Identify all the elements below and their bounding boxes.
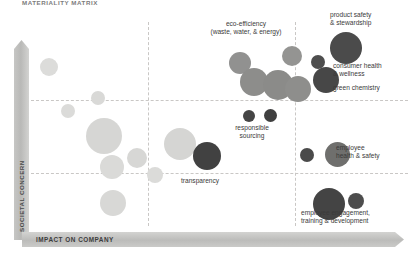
label-product-safety: product safety & stewardship <box>330 11 418 28</box>
label-employee-health: employee health & safety <box>336 144 418 161</box>
label-green-chemistry: green chemistry <box>333 84 419 92</box>
page-title: MATERIALITY MATRIX <box>22 0 98 6</box>
gridline-horizontal-1 <box>26 100 408 101</box>
bubble-dark-7[interactable] <box>300 148 314 162</box>
label-consumer-health: consumer health & wellness <box>333 62 419 79</box>
bubble-dark-1[interactable] <box>243 110 255 122</box>
bubble-light-5[interactable] <box>100 155 124 179</box>
y-axis-label: SOCIETAL CONCERN <box>14 40 29 240</box>
bubble-med-4[interactable] <box>282 46 302 66</box>
label-employee-engagement: employee engagement, training & developm… <box>301 209 417 226</box>
materiality-matrix-chart: MATERIALITY MATRIX eco-efficiency (waste… <box>0 0 420 264</box>
bubble-light-3[interactable] <box>61 104 75 118</box>
bubble-light-2[interactable] <box>91 91 105 105</box>
bubble-light-1[interactable] <box>40 58 58 76</box>
bubble-dark-4[interactable] <box>330 32 362 64</box>
gridline-horizontal-2 <box>26 173 408 174</box>
gridline-vertical-1 <box>148 22 149 226</box>
label-eco-efficiency: eco-efficiency (waste, water, & energy) <box>190 20 302 37</box>
bubble-light-7[interactable] <box>147 167 163 183</box>
bubble-light-8[interactable] <box>100 190 126 216</box>
bubble-dark-3[interactable] <box>193 142 221 170</box>
bubble-dark-9[interactable] <box>348 193 364 209</box>
label-transparency: transparency <box>181 177 243 185</box>
bubble-light-4[interactable] <box>86 118 122 154</box>
label-responsible-sourcing: responsible sourcing <box>216 124 288 141</box>
bubble-med-5[interactable] <box>285 76 311 102</box>
bubble-dark-2[interactable] <box>264 109 277 122</box>
bubble-light-9[interactable] <box>164 128 196 160</box>
bubble-light-6[interactable] <box>127 148 147 168</box>
x-axis-label: IMPACT ON COMPANY <box>36 232 114 247</box>
